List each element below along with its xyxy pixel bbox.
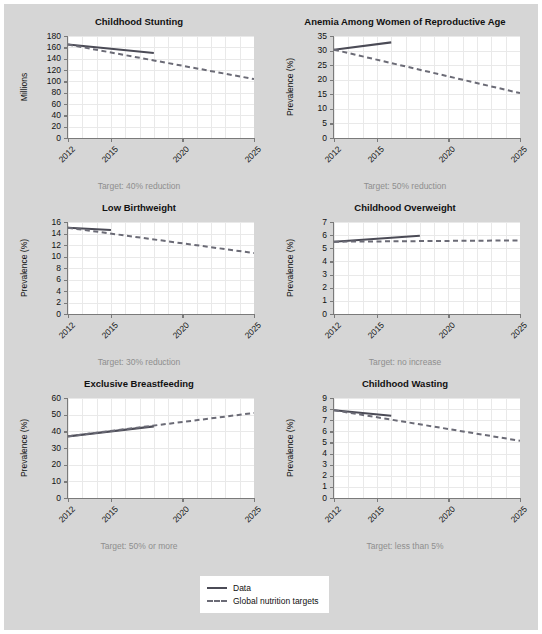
series-target-line [334, 410, 520, 441]
chart-panel-3: Low Birthweight0246810121416201220152020… [10, 200, 268, 372]
x-tick-label: 2012 [46, 504, 77, 535]
y-tick-mark [330, 275, 333, 276]
y-tick-mark [64, 291, 67, 292]
y-tick-mark [64, 70, 67, 71]
x-tick-label: 2015 [355, 504, 386, 535]
y-tick-label: 0 [10, 309, 61, 319]
legend-item: Global nutrition targets [207, 595, 319, 607]
y-tick-label: 50 [10, 409, 61, 419]
y-tick-mark [64, 268, 67, 269]
y-tick-label: 6 [10, 274, 61, 284]
target-annotation: Target: 50% or more [10, 541, 268, 551]
y-tick-mark [330, 420, 333, 421]
x-tick-mark [111, 315, 112, 318]
y-tick-label: 1 [276, 295, 327, 305]
x-tick-mark [377, 139, 378, 142]
x-tick-mark [182, 315, 183, 318]
y-axis-label: Prevalence (%) [19, 239, 29, 297]
y-tick-mark [64, 81, 67, 82]
x-tick-label: 2020 [426, 144, 457, 175]
y-tick-label: 4 [276, 448, 327, 458]
legend-dashed-line-icon [207, 596, 227, 606]
y-tick-mark [330, 261, 333, 262]
y-axis-line [333, 36, 334, 139]
x-axis-line [67, 138, 255, 139]
x-tick-mark [520, 499, 521, 502]
y-tick-label: 5 [276, 437, 327, 447]
series-target-line [68, 45, 254, 80]
y-tick-mark [330, 314, 333, 315]
target-annotation: Target: 30% reduction [10, 357, 268, 367]
y-tick-label: 35 [276, 31, 327, 41]
y-tick-mark [330, 80, 333, 81]
x-tick-label: 2015 [89, 320, 120, 351]
chart-panel-4: Childhood Overweight01234567201220152020… [276, 200, 534, 372]
y-tick-label: 7 [276, 217, 327, 227]
legend-item: Data [207, 582, 319, 594]
y-tick-label: 9 [276, 393, 327, 403]
x-tick-label: 2012 [46, 144, 77, 175]
y-tick-label: 7 [276, 415, 327, 425]
y-tick-mark [64, 104, 67, 105]
y-tick-label: 2 [10, 297, 61, 307]
x-tick-label: 2020 [426, 320, 457, 351]
y-tick-label: 80 [10, 87, 61, 97]
y-tick-label: 20 [10, 459, 61, 469]
x-tick-label: 2025 [232, 144, 263, 175]
y-tick-mark [330, 301, 333, 302]
y-tick-label: 10 [10, 476, 61, 486]
x-tick-mark [111, 139, 112, 142]
chart-title: Childhood Overweight [276, 202, 534, 213]
y-axis-line [333, 222, 334, 315]
series-layer [68, 222, 254, 314]
y-tick-label: 140 [10, 53, 61, 63]
x-tick-label: 2020 [426, 504, 457, 535]
y-tick-mark [330, 235, 333, 236]
x-tick-label: 2015 [89, 144, 120, 175]
plot-area [68, 36, 254, 138]
y-tick-mark [330, 123, 333, 124]
chart-legend: DataGlobal nutrition targets [200, 576, 329, 613]
x-tick-label: 2025 [498, 320, 529, 351]
y-tick-label: 60 [10, 393, 61, 403]
plot-area [334, 36, 520, 138]
y-axis-label: Prevalence (%) [19, 419, 29, 477]
y-tick-mark [64, 47, 67, 48]
y-tick-mark [330, 138, 333, 139]
y-tick-label: 100 [10, 76, 61, 86]
figure-canvas: Childhood Stunting0204060801001201401601… [4, 4, 538, 630]
x-tick-mark [448, 315, 449, 318]
y-tick-mark [330, 398, 333, 399]
y-tick-mark [64, 257, 67, 258]
chart-title: Childhood Wasting [276, 378, 534, 389]
chart-title: Low Birthweight [10, 202, 268, 213]
y-axis-label: Prevalence (%) [285, 239, 295, 297]
chart-title: Childhood Stunting [10, 16, 268, 27]
y-tick-mark [64, 127, 67, 128]
y-tick-label: 1 [276, 481, 327, 491]
x-tick-label: 2012 [312, 320, 343, 351]
legend-solid-line-icon [207, 583, 227, 593]
x-tick-mark [254, 499, 255, 502]
y-axis-label: Millions [19, 73, 29, 101]
chart-panel-1: Childhood Stunting0204060801001201401601… [10, 14, 268, 196]
x-tick-label: 2025 [498, 144, 529, 175]
x-tick-mark [182, 499, 183, 502]
y-tick-mark [330, 465, 333, 466]
y-tick-mark [64, 415, 67, 416]
x-tick-label: 2015 [89, 504, 120, 535]
y-tick-mark [330, 476, 333, 477]
x-tick-mark [68, 139, 69, 142]
x-tick-mark [182, 139, 183, 142]
y-tick-mark [64, 222, 67, 223]
target-annotation: Target: 40% reduction [10, 181, 268, 191]
chart-panel-5: Exclusive Breastfeeding01020304050602012… [10, 376, 268, 556]
y-tick-label: 0 [276, 133, 327, 143]
y-tick-label: 8 [10, 263, 61, 273]
x-tick-label: 2012 [46, 320, 77, 351]
y-tick-label: 5 [276, 243, 327, 253]
y-tick-label: 30 [276, 45, 327, 55]
y-tick-label: 0 [10, 133, 61, 143]
y-tick-mark [64, 93, 67, 94]
x-tick-mark [334, 499, 335, 502]
